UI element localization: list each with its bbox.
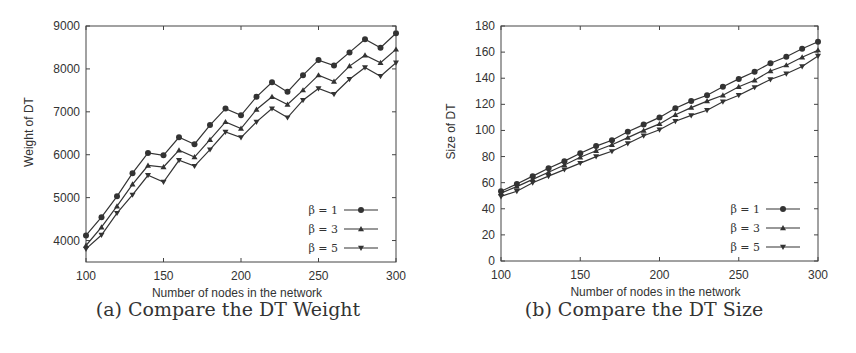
circle-marker-icon [83, 232, 89, 238]
y-tick-label: 80 [482, 150, 496, 164]
circle-marker-icon [641, 122, 647, 128]
circle-marker-icon [207, 122, 213, 128]
y-tick-label: 140 [475, 71, 495, 85]
triangle-up-marker-icon [269, 94, 275, 99]
series-line [498, 54, 821, 200]
circle-marker-icon [393, 30, 399, 36]
circle-marker-icon [783, 54, 789, 60]
weight-line-chart: 100150200250300400050006000700080009000N… [0, 0, 428, 300]
legend-label: β = 3 [308, 223, 338, 236]
circle-marker-icon [223, 106, 229, 112]
circle-marker-icon [688, 98, 694, 104]
y-tick-label: 5000 [53, 191, 80, 205]
y-tick-label: 160 [475, 45, 495, 59]
circle-marker-icon [704, 92, 710, 98]
triangle-up-marker-icon [316, 72, 322, 77]
plot-frame [86, 26, 396, 262]
x-tick-label: 100 [76, 269, 96, 283]
x-tick-label: 250 [729, 268, 749, 282]
triangle-up-marker-icon [362, 52, 368, 57]
size-line-chart: 100150200250300020406080100120140160180N… [428, 0, 856, 300]
y-tick-label: 8000 [53, 62, 80, 76]
circle-marker-icon [285, 89, 291, 95]
circle-marker-icon [161, 152, 167, 158]
y-tick-label: 180 [475, 19, 495, 33]
circle-marker-icon [362, 36, 368, 42]
circle-marker-icon [130, 170, 136, 176]
triangle-down-marker-icon [530, 180, 536, 185]
y-tick-label: 100 [475, 123, 495, 137]
triangle-down-marker-icon [378, 74, 384, 79]
triangle-down-marker-icon [498, 194, 504, 199]
triangle-up-marker-icon [223, 119, 229, 124]
circle-marker-icon [736, 76, 742, 82]
triangle-up-marker-icon [145, 162, 151, 167]
y-axis-label: Size of DT [444, 103, 458, 160]
triangle-up-marker-icon [393, 46, 399, 51]
circle-marker-icon [720, 84, 726, 90]
triangle-down-marker-icon [641, 133, 647, 138]
y-tick-label: 0 [488, 254, 495, 268]
y-tick-label: 7000 [53, 105, 80, 119]
x-tick-label: 250 [308, 269, 328, 283]
y-tick-label: 9000 [53, 19, 80, 33]
circle-marker-icon [254, 94, 260, 100]
caption-weight: (a) Compare the DT Weight [14, 298, 442, 320]
triangle-down-marker-icon [815, 54, 821, 59]
circle-marker-icon [238, 112, 244, 118]
triangle-up-marker-icon [176, 147, 182, 152]
circle-marker-icon [316, 57, 322, 63]
circle-marker-icon [799, 46, 805, 52]
chart-panel-size: 100150200250300020406080100120140160180N… [428, 0, 856, 353]
circle-marker-icon [752, 69, 758, 75]
circle-marker-icon [815, 39, 821, 45]
series-line [83, 30, 399, 238]
circle-marker-icon [192, 141, 198, 147]
triangle-down-marker-icon [285, 115, 291, 120]
circle-marker-icon [780, 206, 786, 212]
legend-label: β = 1 [730, 203, 760, 216]
x-tick-label: 300 [808, 268, 828, 282]
circle-marker-icon [176, 134, 182, 140]
y-tick-label: 40 [482, 202, 496, 216]
circle-marker-icon [657, 114, 663, 120]
triangle-down-marker-icon [672, 119, 678, 124]
circle-marker-icon [347, 49, 353, 55]
y-tick-label: 60 [482, 176, 496, 190]
triangle-down-marker-icon [752, 85, 758, 90]
chart-panel-weight: 100150200250300400050006000700080009000N… [0, 0, 428, 353]
circle-marker-icon [767, 60, 773, 66]
y-tick-label: 4000 [53, 234, 80, 248]
triangle-down-marker-icon [720, 100, 726, 105]
legend-label: β = 5 [308, 242, 338, 255]
x-tick-label: 200 [649, 268, 669, 282]
triangle-up-marker-icon [720, 92, 726, 97]
legend-label: β = 1 [308, 204, 338, 217]
legend-label: β = 3 [730, 222, 760, 235]
caption-size: (b) Compare the DT Size [430, 298, 856, 320]
x-tick-label: 150 [153, 269, 173, 283]
triangle-down-marker-icon [238, 135, 244, 140]
series-line [498, 39, 821, 194]
triangle-down-marker-icon [83, 247, 89, 252]
triangle-up-marker-icon [657, 121, 663, 126]
triangle-up-marker-icon [815, 47, 821, 52]
x-tick-label: 300 [386, 269, 406, 283]
chart-legend: β = 1β = 3β = 5 [730, 203, 800, 254]
circle-marker-icon [99, 214, 105, 220]
series-line [83, 60, 399, 251]
circle-marker-icon [331, 62, 337, 68]
x-tick-label: 150 [570, 268, 590, 282]
y-axis-label: Weight of DT [22, 96, 36, 166]
series-line [498, 47, 821, 195]
triangle-down-marker-icon [192, 164, 198, 169]
circle-marker-icon [269, 79, 275, 85]
x-tick-label: 200 [231, 269, 251, 283]
triangle-up-marker-icon [752, 77, 758, 82]
circle-marker-icon [672, 105, 678, 111]
series-line [83, 46, 399, 247]
circle-marker-icon [145, 150, 151, 156]
circle-marker-icon [625, 129, 631, 135]
y-tick-label: 6000 [53, 148, 80, 162]
triangle-down-marker-icon [331, 92, 337, 97]
